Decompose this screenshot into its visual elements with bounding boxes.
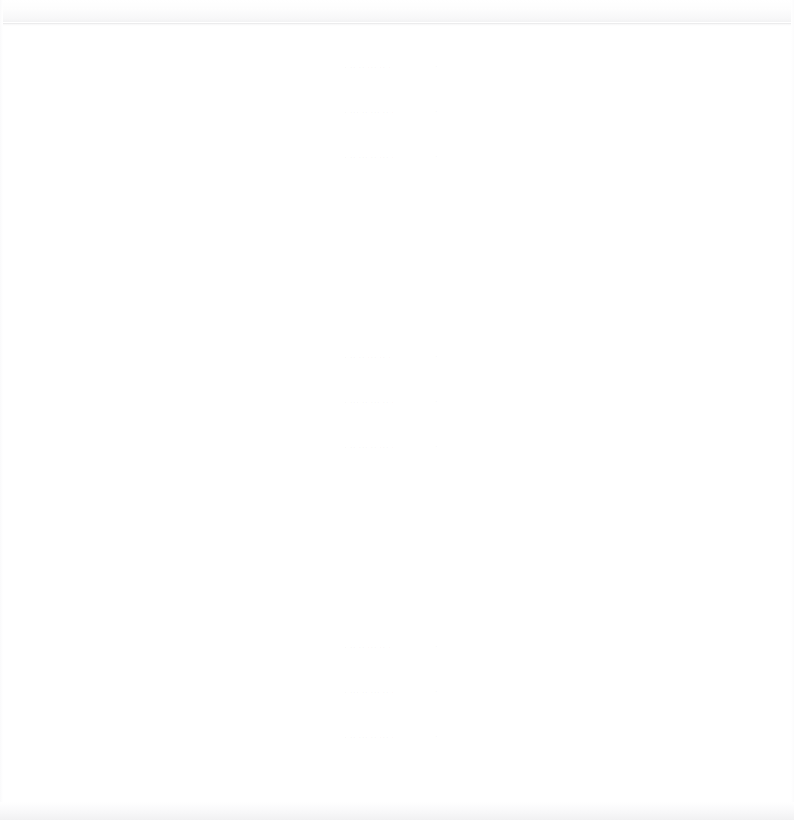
text-line-row: · ··· ·· ··· ·· ···	[344, 107, 454, 152]
sub-dot-mark: ·	[437, 709, 439, 716]
text-line-row: · ·· ··· ·· ··· ···	[344, 732, 454, 777]
faded-text-line: · ·· ··· ·· ··· ·	[344, 442, 395, 453]
trailing-mark: ·	[435, 643, 437, 652]
trailing-mark: ·	[435, 63, 437, 72]
trailing-mark: ·	[435, 688, 437, 697]
trailing-mark: ·	[435, 108, 437, 117]
sub-dot-mark: ·	[437, 374, 439, 381]
faded-text-line: · ·· ·· ··· ·· ·	[344, 642, 391, 653]
text-block: · ·· ·· ··· ·· ···· ··· ·· ··· ·· ···· ·…	[344, 642, 454, 777]
faded-text-line: · ··· ·· ··· ·· ·	[344, 687, 395, 698]
text-line-row: · ·· ··· ·· ··· ···	[344, 152, 454, 197]
text-line-row: · ··· ·· ··· ·· ···	[344, 687, 454, 732]
document-page: · ·· ·· ··· ·· ···· ··· ·· ··· ·· ···· ·…	[0, 0, 794, 820]
trailing-mark: ·	[435, 733, 437, 742]
sub-dot-mark: ·	[437, 464, 439, 471]
text-line-row: · ·· ··· ·· ··· ···	[344, 442, 454, 487]
sub-dot-mark: ·	[437, 664, 439, 671]
sub-dot-mark: ·	[437, 174, 439, 181]
faded-text-line: · ··· ·· ··· ·· ·	[344, 397, 395, 408]
sub-dot-mark: ·	[437, 754, 439, 761]
trailing-mark: ·	[435, 153, 437, 162]
sub-dot-mark: ·	[437, 419, 439, 426]
sub-dot-mark: ·	[437, 129, 439, 136]
faded-text-line: · ··· ·· ··· ·· ·	[344, 107, 395, 118]
text-line-row: · ··· ·· ··· ·· ···	[344, 397, 454, 442]
text-block: · ·· ·· ··· ·· ···· ··· ·· ··· ·· ···· ·…	[344, 352, 454, 487]
faded-text-line: · ·· ··· ·· ··· ·	[344, 732, 395, 743]
faded-text-line: · ·· ·· ··· ·· ·	[344, 352, 391, 363]
document-content: · ·· ·· ··· ·· ···· ··· ·· ··· ·· ···· ·…	[0, 0, 794, 820]
trailing-mark: ·	[435, 443, 437, 452]
trailing-mark: ·	[435, 398, 437, 407]
text-line-row: · ·· ·· ··· ·· ···	[344, 352, 454, 397]
text-line-row: · ·· ·· ··· ·· ···	[344, 62, 454, 107]
faded-text-line: · ·· ·· ··· ·· ·	[344, 62, 391, 73]
text-line-row: · ·· ·· ··· ·· ···	[344, 642, 454, 687]
trailing-mark: ·	[435, 353, 437, 362]
faded-text-line: · ·· ··· ·· ··· ·	[344, 152, 395, 163]
text-block: · ·· ·· ··· ·· ···· ··· ·· ··· ·· ···· ·…	[344, 62, 454, 197]
sub-dot-mark: ·	[437, 84, 439, 91]
